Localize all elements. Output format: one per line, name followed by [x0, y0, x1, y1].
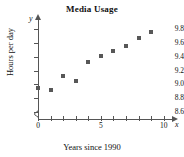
- x-tick-label: 0: [28, 121, 48, 130]
- data-point: [137, 36, 141, 40]
- data-point: [36, 86, 40, 90]
- y-axis-arrow-icon: [35, 14, 41, 20]
- x-tick: [88, 116, 89, 121]
- x-tick-label: 5: [91, 121, 111, 130]
- data-point: [111, 49, 115, 53]
- x-tick: [51, 116, 52, 121]
- y-tick: [34, 57, 39, 58]
- data-point: [86, 60, 90, 64]
- x-axis-line: [38, 119, 174, 120]
- y-tick-label: 9.4: [151, 52, 184, 61]
- x-tick: [151, 116, 152, 121]
- y-tick-label: 9.0: [151, 79, 184, 88]
- chart-figure: Media Usage Hours per day Years since 19…: [0, 0, 184, 157]
- y-variable-label: y: [29, 14, 33, 23]
- data-point: [99, 54, 103, 58]
- y-tick: [34, 71, 39, 72]
- x-tick: [126, 116, 127, 121]
- y-tick-label: 9.6: [151, 38, 184, 47]
- data-point: [74, 79, 78, 83]
- x-tick: [139, 116, 140, 121]
- plot-area: y x 8.68.89.09.29.49.69.8 0510: [0, 0, 184, 157]
- y-tick: [34, 112, 39, 113]
- data-point: [49, 88, 53, 92]
- data-point: [61, 74, 65, 78]
- y-axis-line: [38, 20, 39, 119]
- x-tick: [76, 116, 77, 121]
- y-tick-label: 8.8: [151, 93, 184, 102]
- y-tick: [34, 43, 39, 44]
- y-tick-label: 9.2: [151, 66, 184, 75]
- data-point: [149, 30, 153, 34]
- x-tick-label: 10: [154, 121, 174, 130]
- y-tick-label: 8.6: [151, 107, 184, 116]
- y-tick: [34, 98, 39, 99]
- y-tick: [34, 29, 39, 30]
- y-tick-label: 9.8: [151, 24, 184, 33]
- x-variable-label: x: [175, 120, 179, 129]
- x-tick: [63, 116, 64, 121]
- data-point: [124, 44, 128, 48]
- x-tick: [113, 116, 114, 121]
